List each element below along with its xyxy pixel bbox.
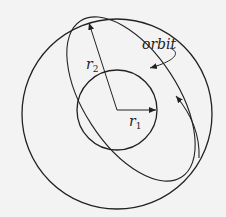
transfer-orbit-ellipse bbox=[41, 0, 221, 203]
orbit-diagram: orbit r2 r1 bbox=[0, 0, 226, 217]
r2-label: r2 bbox=[86, 56, 98, 74]
outer-circle bbox=[22, 19, 212, 209]
orbit-label: orbit bbox=[142, 36, 177, 52]
r1-label: r1 bbox=[129, 113, 141, 131]
